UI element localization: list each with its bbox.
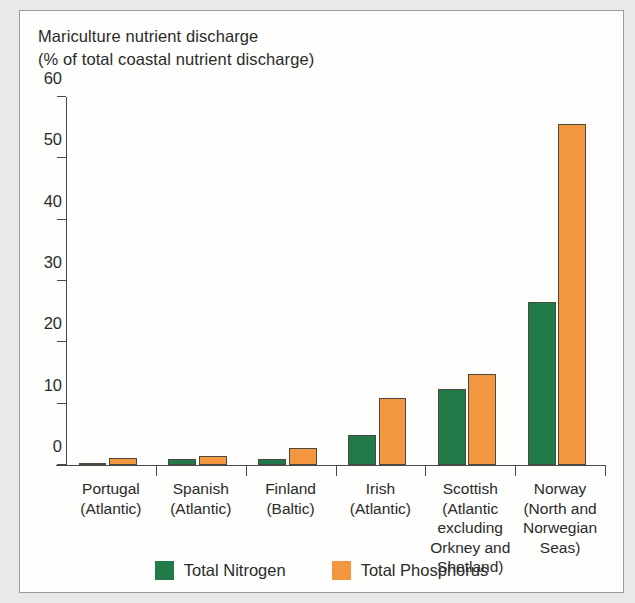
chart-title-line-1: Mariculture nutrient discharge [38,25,314,48]
bar-total-phosphorus [289,448,317,465]
y-axis-tick-label: 40 [44,191,62,210]
category-label-line: Portugal [61,479,162,499]
x-axis-tick [336,465,337,476]
category-label-line: (Atlantic) [330,499,431,519]
bar-total-nitrogen [168,459,196,465]
legend-label: Total Nitrogen [184,561,286,580]
bar-group: Spanish(Atlantic) [156,97,246,465]
x-axis-tick [156,465,157,476]
x-axis-category-label: Spanish(Atlantic) [150,479,251,518]
category-label-line: Norway [510,479,611,499]
bar-group: Scottish(AtlanticexcludingOrkney andShet… [425,97,515,465]
category-label-line: Finland [240,479,341,499]
category-label-line: (Atlantic) [150,499,251,519]
category-label-line: (North and [510,499,611,519]
x-axis-category-label: Finland(Baltic) [240,479,341,518]
bar-total-nitrogen [528,302,556,465]
green-square-swatch-icon [155,561,174,580]
legend-label: Total Phosphorus [361,561,489,580]
y-axis-tick [57,341,66,342]
y-axis-tick [57,219,66,220]
y-axis-tick [57,280,66,281]
chart-legend: Total NitrogenTotal Phosphorus [20,561,623,580]
category-label-line: Spanish [150,479,251,499]
y-axis-tick-label: 10 [44,375,62,394]
chart-figure: Mariculture nutrient discharge (% of tot… [19,10,624,593]
orange-square-swatch-icon [332,561,351,580]
x-axis-tick [246,465,247,476]
category-label-line: (Baltic) [240,499,341,519]
bar-group: Irish(Atlantic) [336,97,426,465]
y-axis-tick [57,403,66,404]
y-axis-tick-label: 0 [53,437,62,456]
category-label-line: excluding [420,518,521,538]
category-label-line: Seas) [510,538,611,558]
category-label-line: (Atlantic [420,499,521,519]
category-label-line: Scottish [420,479,521,499]
x-axis-category-label: Irish(Atlantic) [330,479,431,518]
legend-item: Total Nitrogen [155,561,286,580]
bar-total-nitrogen [438,389,466,465]
chart-title-line-2: (% of total coastal nutrient discharge) [38,48,314,71]
plot-area: 0102030405060 Portugal(Atlantic)Spanish(… [66,97,605,465]
x-axis-tick [515,465,516,476]
bar-total-phosphorus [379,398,407,465]
y-axis-tick [57,157,66,158]
y-axis-tick-label: 50 [44,130,62,149]
category-label-line: Irish [330,479,431,499]
bar-group: Portugal(Atlantic) [66,97,156,465]
bar-total-phosphorus [558,124,586,465]
x-axis-category-label: Norway(North andNorwegianSeas) [510,479,611,557]
x-axis-tick [425,465,426,476]
bar-group: Norway(North andNorwegianSeas) [515,97,605,465]
bar-total-phosphorus [199,456,227,465]
category-label-line: Norwegian [510,518,611,538]
y-axis-tick [57,96,66,97]
bar-total-phosphorus [468,374,496,465]
x-axis-line [56,465,605,466]
y-axis-tick-label: 30 [44,253,62,272]
y-axis-tick [57,464,66,465]
legend-item: Total Phosphorus [332,561,489,580]
x-axis-tick [605,465,606,476]
x-axis-category-label: Portugal(Atlantic) [61,479,162,518]
category-label-line: Orkney and [420,538,521,558]
y-axis-tick-label: 20 [44,314,62,333]
bar-total-phosphorus [109,458,137,465]
y-axis-tick-label: 60 [44,69,62,88]
bar-total-nitrogen [348,435,376,465]
category-label-line: (Atlantic) [61,499,162,519]
bar-group: Finland(Baltic) [246,97,336,465]
bar-total-nitrogen [79,463,107,465]
chart-title: Mariculture nutrient discharge (% of tot… [38,25,314,71]
bar-total-nitrogen [258,459,286,465]
